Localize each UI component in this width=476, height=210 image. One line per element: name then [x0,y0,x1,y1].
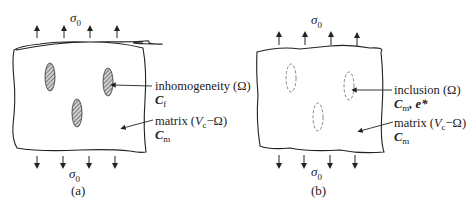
inhomogeneity-2 [103,68,113,96]
panel-a-bottom-stress-label: σ0 [69,166,80,184]
panel-b-leaders [354,90,393,131]
panel-a-matrix-stiffness: Cm [155,128,170,146]
panel-a-caption: (a) [71,183,85,199]
panel-a-inhomogeneity-label: inhomogeneity (Ω) [155,79,251,93]
panel-b-matrix-stiffness: Cm [394,130,409,148]
panel-b-top-arrows [279,34,357,46]
panel-a-top-stress-label: σ0 [70,10,81,28]
panel-b-inclusion-label: inclusion (Ω) [394,83,461,97]
inclusion-1 [286,64,296,92]
panel-a-inhomogeneity-stiffness: Cf [155,93,166,111]
panel-a-leaders [113,85,153,128]
panel-a-top-arrows [37,28,117,38]
inclusion-3 [313,103,323,131]
panel-b-caption: (b) [311,183,326,199]
panel-b-top-stress-label: σ0 [311,12,322,30]
panel-a-bottom-arrows [37,156,115,166]
panel-b-body [257,45,384,152]
panel-b-inclusion-stiffness: Cm, e* [394,97,427,115]
panel-a-body [13,41,162,152]
panel-b-bottom-stress-label: σ0 [311,164,322,182]
inhomogeneity-3 [72,99,82,127]
inhomogeneity-1 [45,63,55,91]
inclusion-2 [344,72,354,100]
